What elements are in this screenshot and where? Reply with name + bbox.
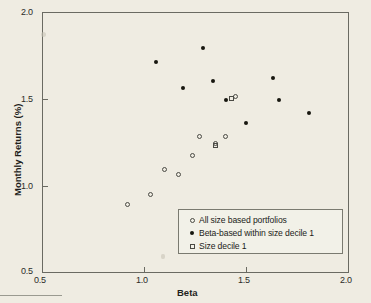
legend-label-0: All size based portfolios (199, 215, 287, 225)
x-tick-label-2.0: 2.0 (340, 275, 352, 285)
scatter-plot-figure: 2.0 1.5 1.0 0.5 0.5 1.0 1.5 2.0 Beta Mon… (0, 0, 371, 303)
page-edge-artifact (0, 295, 62, 296)
filled-dot-marker (211, 79, 215, 83)
open-circle-marker (125, 202, 130, 207)
filled-dot-marker (154, 60, 158, 64)
open-square-marker (213, 143, 218, 148)
y-tick-label-1.5: 1.5 (21, 94, 33, 104)
filled-dot-marker (224, 98, 228, 102)
open-circle-marker (176, 172, 181, 177)
x-tick-2.0 (348, 267, 349, 272)
legend-entry-0: All size based portfolios (185, 215, 287, 225)
open-circle-icon (185, 218, 199, 223)
x-tick-label-1.0: 1.0 (136, 275, 148, 285)
scan-artifact-a (41, 32, 46, 37)
y-axis-title: Monthly Returns (%) (12, 104, 23, 196)
filled-dot-marker (201, 46, 205, 50)
y-tick-1.0 (43, 186, 48, 187)
filled-dot-marker (271, 76, 275, 80)
open-circle-marker (223, 134, 228, 139)
x-tick-1.5 (246, 267, 247, 272)
filled-dot-marker (277, 98, 281, 102)
legend-label-2: Size decile 1 (199, 241, 246, 251)
y-tick-label-0.5: 0.5 (21, 266, 33, 276)
x-tick-0.5 (42, 267, 43, 272)
y-tick-label-2.0: 2.0 (21, 7, 33, 17)
scan-artifact-b (161, 254, 165, 259)
open-square-marker (229, 96, 234, 101)
open-circle-marker (162, 167, 167, 172)
filled-dot-marker (307, 111, 311, 115)
x-axis-line (42, 272, 349, 273)
y-axis-line (42, 12, 43, 273)
open-circle-marker (197, 134, 202, 139)
x-tick-label-1.5: 1.5 (238, 275, 250, 285)
open-circle-marker (148, 192, 153, 197)
filled-dot-marker (244, 121, 248, 125)
filled-dot-marker (181, 86, 185, 90)
x-tick-label-0.5: 0.5 (34, 275, 46, 285)
plot-right-border (348, 12, 349, 273)
filled-dot-icon (185, 231, 199, 235)
legend-label-1: Beta-based within size decile 1 (199, 228, 314, 238)
y-tick-1.5 (43, 99, 48, 100)
x-axis-title: Beta (177, 287, 198, 298)
plot-top-border (42, 12, 349, 13)
y-tick-0.5 (43, 272, 48, 273)
open-square-icon (185, 244, 199, 249)
legend-entry-1: Beta-based within size decile 1 (185, 228, 314, 238)
y-tick-2.0 (43, 12, 48, 13)
open-circle-marker (190, 153, 195, 158)
legend-entry-2: Size decile 1 (185, 241, 246, 251)
chart-legend: All size based portfolios Beta-based wit… (178, 209, 343, 254)
x-tick-1.0 (144, 267, 145, 272)
